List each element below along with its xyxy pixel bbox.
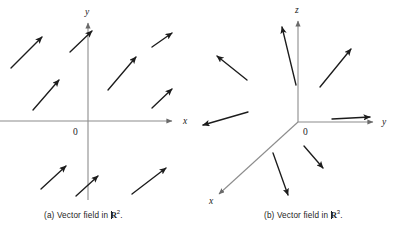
blackboard-bold-stem <box>111 211 112 219</box>
vector-arrow <box>152 33 172 47</box>
y-axis-label-b: y <box>381 117 387 127</box>
x-axis-line-b <box>219 122 298 194</box>
vector-arrow <box>70 31 92 52</box>
caption-panel-a: (a) Vector field in R2. <box>44 209 123 220</box>
panel-b-axes <box>219 21 373 194</box>
origin-label-b: 0 <box>303 127 308 137</box>
caption-b-prefix: (b) Vector field in <box>264 211 331 220</box>
vector-arrow <box>273 153 288 195</box>
vector-arrow <box>108 57 136 90</box>
vector-arrow <box>304 146 323 168</box>
caption-b-suffix: . <box>340 211 342 220</box>
x-axis-label-a: x <box>182 116 188 126</box>
figure-root: y x 0 <box>0 0 400 228</box>
panel-a-vector-field-r2: y x 0 <box>0 0 200 228</box>
caption-a-prefix: (a) Vector field in <box>44 211 111 220</box>
caption-b-blackboard-r: R <box>331 210 337 220</box>
panel-b-vectors <box>203 27 370 195</box>
panel-b-vector-field-r3: z y x 0 <box>200 0 400 228</box>
origin-label-a: 0 <box>73 127 78 137</box>
vector-arrow <box>41 166 66 189</box>
vector-arrow <box>332 117 370 119</box>
caption-a-suffix: . <box>120 211 122 220</box>
vector-arrow <box>282 27 296 85</box>
y-axis-label-a: y <box>84 7 90 17</box>
vector-arrow <box>203 112 248 125</box>
caption-panel-b: (b) Vector field in R3. <box>264 209 343 220</box>
panel-a-vectors <box>11 31 172 196</box>
vector-arrow <box>11 37 42 68</box>
blackboard-bold-stem <box>331 211 332 219</box>
vector-arrow <box>132 168 166 194</box>
caption-a-blackboard-r: R <box>111 210 117 220</box>
vector-arrow <box>320 49 351 87</box>
panel-a-axes <box>0 23 172 200</box>
vector-arrow <box>33 80 59 110</box>
vector-arrow <box>152 89 172 108</box>
vector-arrow <box>217 56 247 80</box>
vector-arrow <box>76 176 98 196</box>
x-axis-label-b: x <box>208 196 214 206</box>
z-axis-label-b: z <box>294 5 299 15</box>
